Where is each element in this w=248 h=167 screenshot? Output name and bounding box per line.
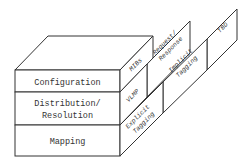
layer-mapping-label: Mapping [50, 137, 86, 147]
layer-distribution-label-line1: Distribution/ [34, 99, 100, 109]
panel-tbd [207, 9, 237, 70]
layer-configuration-label: Configuration [34, 78, 100, 88]
layered-architecture-diagram: Configuration Distribution/ Resolution M… [0, 0, 248, 167]
layer-distribution-label-line2: Resolution [42, 111, 93, 121]
